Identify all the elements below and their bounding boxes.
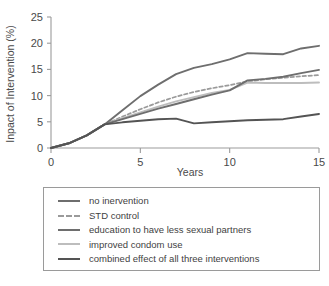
- series-line: [51, 70, 319, 148]
- legend-item-label: no inervention: [89, 196, 149, 206]
- legend-item-label: education to have less sexual partners: [89, 225, 251, 235]
- axis-layer: 0510152025051015: [31, 11, 325, 168]
- legend-item-label: combined effect of all three interventio…: [89, 254, 259, 264]
- legend-item-label: improved condom use: [89, 240, 182, 250]
- line-chart-svg: 0510152025051015 Inpact of Intervention …: [0, 0, 329, 182]
- y-tick-label: 20: [31, 37, 43, 49]
- y-tick-label: 25: [31, 11, 43, 23]
- x-tick-label: 0: [48, 156, 54, 168]
- x-tick-label: 10: [224, 156, 236, 168]
- y-tick-label: 15: [31, 63, 43, 75]
- x-axis-title: Years: [177, 166, 203, 178]
- legend-item-label: STD control: [89, 211, 139, 221]
- x-tick-label: 5: [137, 156, 143, 168]
- x-tick-label: 15: [313, 156, 325, 168]
- chart-legend: no inerventionSTD controleducation to ha…: [43, 187, 320, 271]
- series-line: [51, 114, 319, 148]
- legend-item[interactable]: STD control: [58, 208, 259, 222]
- series-line: [51, 75, 319, 148]
- series-layer: [51, 46, 319, 148]
- legend-item[interactable]: improved condom use: [58, 237, 259, 251]
- y-tick-label: 5: [37, 116, 43, 128]
- legend-item[interactable]: education to have less sexual partners: [58, 223, 259, 237]
- legend-item[interactable]: no inervention: [58, 194, 259, 208]
- plot-area: 0510152025051015 Inpact of Intervention …: [0, 0, 329, 182]
- y-tick-label: 0: [37, 142, 43, 154]
- y-tick-label: 10: [31, 90, 43, 102]
- legend-list: no inerventionSTD controleducation to ha…: [58, 194, 259, 266]
- legend-item[interactable]: combined effect of all three interventio…: [58, 252, 259, 266]
- y-axis-title: Inpact of Intervention (%): [4, 25, 16, 142]
- chart-figure: 0510152025051015 Inpact of Intervention …: [0, 0, 329, 286]
- series-line: [51, 83, 319, 149]
